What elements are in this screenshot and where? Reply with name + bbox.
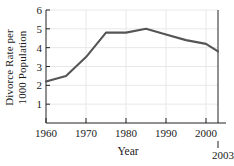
y-axis-tick-labels: 123456	[37, 4, 43, 110]
x-axis-title: Year	[117, 145, 138, 157]
x-tick-label: 2000	[195, 127, 218, 139]
x-tick-label: 1960	[35, 127, 58, 139]
x-tick-label: 1970	[75, 127, 98, 139]
x-axis-tick-labels: 19601970198019902000	[35, 127, 218, 139]
y-tick-label: 3	[37, 61, 43, 73]
y-tick-label: 2	[37, 79, 43, 91]
y-tick-label: 1	[37, 98, 43, 110]
y-tick-label: 6	[37, 4, 43, 16]
y-tick-label: 4	[37, 42, 43, 54]
plot-area: 123456 19601970198019902000 2003 Year	[0, 0, 234, 166]
x-tick-label: 1980	[115, 127, 138, 139]
extra-x-tick-2003: 2003	[212, 141, 234, 161]
y-tick-label: 5	[37, 23, 43, 35]
extra-tick-label: 2003	[212, 149, 234, 161]
x-tick-label: 1990	[155, 127, 178, 139]
divorce-rate-line-chart: Divorce Rate per 1000 Population 123456 …	[0, 0, 234, 166]
